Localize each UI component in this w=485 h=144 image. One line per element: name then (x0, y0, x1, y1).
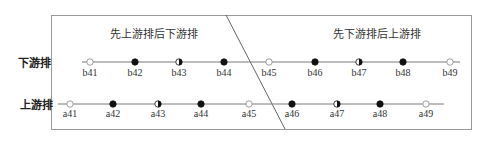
marker-filled-b42 (132, 59, 138, 65)
point-label-b47: b47 (352, 67, 367, 78)
marker-filled-a48 (377, 101, 383, 107)
point-label-b41: b41 (83, 67, 98, 78)
point-label-a43: a43 (151, 108, 165, 119)
point-label-a42: a42 (106, 108, 120, 119)
marker-open-a41 (67, 101, 73, 107)
marker-half-b47 (356, 59, 362, 65)
point-label-b44: b44 (217, 67, 232, 78)
point-label-b48: b48 (396, 67, 411, 78)
point-label-b42: b42 (128, 67, 143, 78)
point-label-a44: a44 (194, 108, 208, 119)
marker-half-b43 (176, 59, 182, 65)
marker-open-a45 (246, 101, 252, 107)
point-label-a41: a41 (63, 108, 77, 119)
point-label-b46: b46 (308, 67, 323, 78)
upstream-row-label: 上游排 (20, 96, 53, 112)
marker-open-b41 (87, 59, 93, 65)
marker-filled-b48 (400, 59, 406, 65)
marker-half-a47 (334, 101, 340, 107)
point-label-b43: b43 (172, 67, 187, 78)
point-label-a48: a48 (373, 108, 387, 119)
point-label-a49: a49 (419, 108, 433, 119)
marker-open-a49 (423, 101, 429, 107)
marker-filled-b44 (221, 59, 227, 65)
point-label-b45: b45 (262, 67, 277, 78)
right-section-title: 先下游排后上游排 (333, 25, 421, 41)
marker-filled-a46 (289, 101, 295, 107)
marker-half-a43 (155, 101, 161, 107)
marker-filled-a44 (198, 101, 204, 107)
marker-filled-a42 (110, 101, 116, 107)
marker-open-b45 (266, 59, 272, 65)
point-label-a47: a47 (330, 108, 344, 119)
marker-open-b49 (447, 59, 453, 65)
downstream-row-label: 下游排 (18, 54, 51, 70)
point-label-a45: a45 (242, 108, 256, 119)
point-label-b49: b49 (443, 67, 458, 78)
marker-filled-b46 (312, 59, 318, 65)
left-section-title: 先上游排后下游排 (110, 25, 198, 41)
point-label-a46: a46 (285, 108, 299, 119)
diagram-canvas (0, 0, 485, 144)
